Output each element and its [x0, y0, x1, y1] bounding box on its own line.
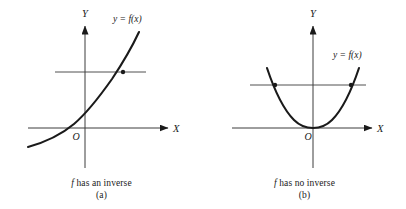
horizontal-line-test-figure: X Y O y = f(x) f has an inverse (a)	[0, 0, 406, 209]
sub-label-a: (a)	[0, 190, 203, 202]
intersection-point-a-1	[121, 70, 125, 74]
sub-label-b: (b)	[203, 190, 406, 202]
intersection-point-b-1	[273, 83, 277, 87]
curve-a	[28, 32, 139, 147]
curve-label-b: y = f(x)	[332, 50, 362, 61]
x-axis-label-a: X	[172, 123, 180, 134]
caption-b-text: has no inverse	[277, 178, 335, 188]
caption-a: f has an inverse	[0, 178, 203, 190]
panel-b: X Y O y = f(x) f has no inverse (b)	[203, 0, 406, 209]
y-axis-label-a: Y	[82, 8, 89, 19]
curve-label-a: y = f(x)	[112, 14, 142, 25]
origin-label-b: O	[304, 131, 311, 142]
intersection-point-b-2	[349, 83, 353, 87]
plot-b: X Y O y = f(x)	[203, 0, 406, 175]
origin-label-a: O	[72, 131, 79, 142]
x-axis-label-b: X	[376, 123, 384, 134]
plot-a: X Y O y = f(x)	[0, 0, 203, 175]
caption-b: f has no inverse	[203, 178, 406, 190]
caption-a-text: has an inverse	[74, 178, 132, 188]
y-axis-label-b: Y	[310, 8, 317, 19]
panel-a: X Y O y = f(x) f has an inverse (a)	[0, 0, 203, 209]
